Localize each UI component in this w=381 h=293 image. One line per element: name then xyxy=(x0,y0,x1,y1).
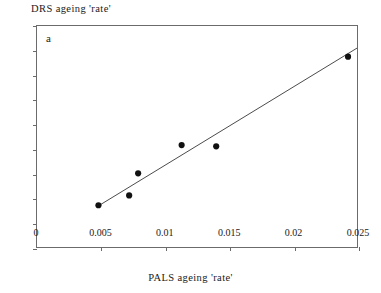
x-tick-label: 0.005 xyxy=(89,227,112,238)
trend-line-group xyxy=(98,48,357,206)
data-point xyxy=(179,142,185,148)
x-tick xyxy=(230,247,231,251)
data-point xyxy=(95,202,101,208)
data-point xyxy=(126,192,132,198)
data-point xyxy=(345,54,351,60)
trend-line xyxy=(98,48,357,206)
data-point xyxy=(213,143,219,149)
y-axis-title: DRS ageing 'rate' xyxy=(31,3,111,14)
chart-figure: DRS ageing 'rate' a 00.20.40.60.811.21.4… xyxy=(0,0,381,293)
x-tick xyxy=(295,247,296,251)
plot-area: a xyxy=(36,25,358,248)
x-tick-label: 0.015 xyxy=(218,227,241,238)
data-points-group xyxy=(95,54,351,209)
x-tick xyxy=(101,247,102,251)
x-tick-label: 0.025 xyxy=(347,227,370,238)
x-axis-title: PALS ageing 'rate' xyxy=(0,272,381,283)
x-tick-label: 0.02 xyxy=(285,227,303,238)
y-tick xyxy=(33,249,37,250)
x-tick-label: 0 xyxy=(34,227,39,238)
x-tick-label: 0.01 xyxy=(156,227,174,238)
x-tick xyxy=(166,247,167,251)
x-tick xyxy=(359,247,360,251)
data-point xyxy=(135,170,141,176)
data-layer xyxy=(37,26,357,247)
